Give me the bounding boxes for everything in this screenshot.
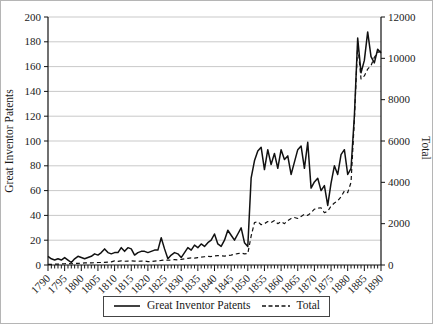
left-axis-tick-label: 120 <box>25 110 42 122</box>
left-axis-tick-label: 40 <box>30 209 42 221</box>
right-axis-tick-label: 4000 <box>388 176 411 188</box>
left-axis-tick-label: 0 <box>36 259 42 271</box>
right-axis-tick-label: 12000 <box>388 11 416 23</box>
right-axis-tick-label: 10000 <box>388 52 416 64</box>
series-line-total <box>48 44 381 265</box>
left-axis-tick-label: 80 <box>30 159 42 171</box>
chart-figure: 0204060801001201401601802000200040006000… <box>0 0 433 324</box>
dashed-line-icon <box>261 302 291 310</box>
chart-legend: Great Inventor Patents Total <box>1 296 432 317</box>
right-axis-tick-label: 0 <box>388 259 394 271</box>
left-axis-tick-label: 100 <box>25 135 42 147</box>
legend-label-total: Total <box>297 299 320 313</box>
left-axis-tick-label: 180 <box>25 35 42 47</box>
chart-canvas: 0204060801001201401601802000200040006000… <box>1 1 433 324</box>
x-axis-tick-label: 1890 <box>361 272 385 296</box>
right-axis-tick-label: 2000 <box>388 217 411 229</box>
left-axis-tick-label: 140 <box>25 85 42 97</box>
legend-box: Great Inventor Patents Total <box>103 296 330 317</box>
right-axis-title: Total <box>420 136 432 159</box>
right-axis-tick-label: 6000 <box>388 135 411 147</box>
left-axis-tick-label: 160 <box>25 60 42 72</box>
right-axis-tick-label: 8000 <box>388 93 411 105</box>
solid-line-icon <box>113 302 141 310</box>
left-axis-title: Great Inventor Patents <box>3 89 15 193</box>
left-axis-tick-label: 200 <box>25 11 42 23</box>
left-axis-tick-label: 20 <box>30 234 42 246</box>
legend-label-great-inventor-patents: Great Inventor Patents <box>147 299 250 313</box>
left-axis-tick-label: 60 <box>30 184 42 196</box>
